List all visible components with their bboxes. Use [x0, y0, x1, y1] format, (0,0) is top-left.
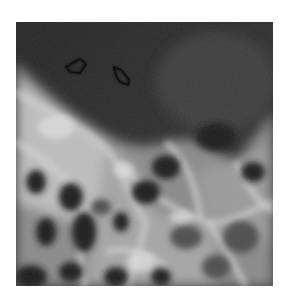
- radiograph-canvas: [16, 22, 273, 286]
- radiograph-image: Grayscale radiograph showing a dark uppe…: [16, 22, 273, 286]
